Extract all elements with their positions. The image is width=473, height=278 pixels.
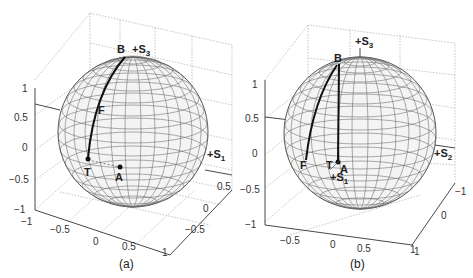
svg-text:−1: −1 — [455, 186, 467, 197]
caption-b: (b) — [350, 257, 365, 271]
svg-text:−0.5: −0.5 — [50, 224, 70, 235]
x-ticks-b: −0.5 0 0.5 1 — [280, 235, 416, 255]
sphere-a — [58, 56, 208, 207]
figure-canvas: B +S3 F T A +S1 1 0.5 0 −0.5 −1 −1 −0.5 … — [0, 0, 473, 278]
x-ticks-a: −1 −0.5 0 0.5 1 — [21, 216, 168, 258]
trajectory-b-vertical — [338, 64, 339, 162]
label-b-a: B — [117, 43, 125, 55]
y-ticks-a: 0.5 0 −0.5 — [185, 181, 231, 235]
svg-text:0: 0 — [441, 210, 447, 221]
panel-a: B +S3 F T A +S1 1 0.5 0 −0.5 −1 −1 −0.5 … — [9, 13, 232, 271]
label-s2-b: +S2 — [434, 147, 453, 162]
svg-text:−0.5: −0.5 — [280, 235, 300, 246]
label-a-a: A — [115, 171, 123, 183]
point-a-a — [118, 165, 123, 170]
svg-text:0: 0 — [22, 142, 28, 153]
svg-text:0: 0 — [203, 203, 209, 214]
svg-text:0: 0 — [93, 236, 99, 247]
label-s1-a: +S1 — [207, 148, 226, 163]
label-f-b: F — [300, 159, 307, 171]
s1-axis-line-a — [35, 104, 60, 110]
svg-text:−1: −1 — [21, 216, 33, 227]
caption-a: (a) — [119, 257, 134, 271]
label-f-a: F — [98, 104, 105, 116]
label-s3-a: +S3 — [132, 43, 151, 58]
label-t-b: T — [326, 159, 333, 171]
svg-text:1: 1 — [414, 246, 420, 257]
label-s3-b: +S3 — [355, 35, 374, 50]
sphere-b — [284, 57, 436, 209]
svg-text:−0.5: −0.5 — [9, 174, 29, 185]
svg-text:0.5: 0.5 — [245, 113, 259, 124]
svg-text:−0.5: −0.5 — [240, 184, 260, 195]
svg-text:1: 1 — [162, 247, 168, 258]
svg-text:0.5: 0.5 — [357, 243, 371, 254]
svg-text:0.5: 0.5 — [122, 241, 136, 252]
svg-text:−1: −1 — [14, 204, 26, 215]
z-ticks-a: 1 0.5 0 −0.5 −1 — [9, 83, 29, 215]
svg-text:0: 0 — [330, 239, 336, 250]
y-ticks-b: −1 0 1 — [414, 186, 467, 257]
svg-text:0.5: 0.5 — [217, 181, 231, 192]
label-t-a: T — [84, 166, 91, 178]
svg-text:0.5: 0.5 — [14, 112, 28, 123]
label-b-b: B — [334, 52, 342, 64]
z-ticks-b: 1 0.5 0 −0.5 −1 — [240, 79, 260, 230]
svg-text:−0.5: −0.5 — [185, 224, 205, 235]
svg-text:1: 1 — [252, 79, 258, 90]
svg-text:−1: −1 — [245, 219, 257, 230]
panel-b: B +S3 F T A +S1 +S2 1 0.5 0 −0.5 −1 −0.5… — [240, 25, 467, 271]
point-t-a — [86, 157, 91, 162]
svg-text:0: 0 — [252, 148, 258, 159]
svg-text:1: 1 — [22, 83, 28, 94]
